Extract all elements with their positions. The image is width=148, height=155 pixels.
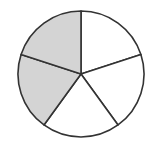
fraction-circle — [0, 0, 148, 155]
